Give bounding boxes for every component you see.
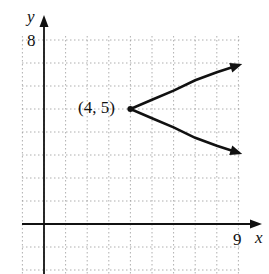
y-axis-label: y	[27, 8, 35, 25]
vertex-point	[127, 106, 133, 112]
x-max-tick-label: 9	[233, 231, 242, 248]
chart-plot	[0, 0, 269, 274]
x-axis-label: x	[255, 229, 263, 246]
y-axis-arrow-icon	[40, 15, 49, 27]
curve-arrow-top-icon	[229, 63, 242, 73]
vertex-label: (4, 5)	[78, 99, 115, 116]
y-max-tick-label: 8	[27, 32, 36, 49]
grid-lines	[22, 36, 240, 274]
curve-arrow-bottom-icon	[229, 146, 242, 156]
